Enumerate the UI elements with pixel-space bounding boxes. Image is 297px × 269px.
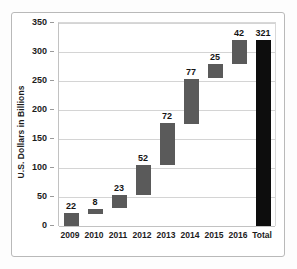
gridline: [59, 23, 275, 24]
y-axis-tick-mark: [50, 225, 54, 226]
gridline: [59, 226, 275, 227]
y-axis-tick-mark: [50, 109, 54, 110]
bar-value-label: 42: [234, 28, 244, 38]
gridline: [59, 81, 275, 82]
waterfall-bar: [112, 195, 127, 208]
waterfall-chart-figure: U.S. Dollars in Billions 050100150200250…: [0, 0, 297, 269]
waterfall-bar: [136, 165, 151, 195]
y-axis-title: U.S. Dollars in Billions: [13, 62, 29, 202]
total-bar: [256, 40, 271, 226]
y-axis-tick-label: 0: [42, 220, 47, 230]
waterfall-bar: [88, 209, 103, 214]
x-axis-tick-label: 2012: [133, 230, 152, 240]
bar-value-label: 77: [186, 67, 196, 77]
bar-value-label: 321: [255, 28, 270, 38]
y-axis-tick-label: 300: [32, 46, 47, 56]
x-axis-tick-label: 2015: [205, 230, 224, 240]
y-axis-tick-label: 50: [37, 191, 47, 201]
x-axis-tick-labels: 20092010201120122013201420152016Total: [58, 230, 276, 246]
x-axis-tick-label: 2009: [61, 230, 80, 240]
x-axis-tick-label: 2013: [157, 230, 176, 240]
x-axis-tick-label: 2014: [181, 230, 200, 240]
y-axis-tick-mark: [50, 51, 54, 52]
y-axis-title-text: U.S. Dollars in Billions: [16, 85, 26, 178]
y-axis-tick-mark: [50, 196, 54, 197]
y-axis-tick-mark: [50, 167, 54, 168]
x-axis-tick-label: 2011: [109, 230, 127, 240]
y-axis-tick-label: 100: [32, 162, 47, 172]
waterfall-bar: [232, 40, 247, 64]
bar-value-label: 8: [92, 197, 97, 207]
bar-value-label: 72: [162, 111, 172, 121]
y-axis-tick-label: 200: [32, 104, 47, 114]
gridline: [59, 168, 275, 169]
y-axis-tick-mark: [50, 80, 54, 81]
x-axis-tick-label: Total: [252, 230, 272, 240]
y-axis-tick-labels: 050100150200250300350: [28, 22, 54, 226]
bar-value-label: 23: [114, 183, 124, 193]
bar-value-label: 22: [66, 201, 76, 211]
waterfall-bar: [208, 64, 223, 78]
x-axis-tick-label: 2016: [229, 230, 248, 240]
waterfall-bar: [184, 79, 199, 124]
gridline: [59, 197, 275, 198]
bar-value-label: 52: [138, 153, 148, 163]
y-axis-tick-label: 350: [32, 17, 47, 27]
plot-area: 228235272772542321: [58, 22, 276, 226]
y-axis-tick-label: 150: [32, 133, 47, 143]
waterfall-bar: [64, 213, 79, 226]
x-axis-tick-label: 2010: [85, 230, 104, 240]
y-axis-tick-label: 250: [32, 75, 47, 85]
y-axis-tick-mark: [50, 22, 54, 23]
y-axis-tick-mark: [50, 138, 54, 139]
waterfall-bar: [160, 123, 175, 165]
bar-value-label: 25: [210, 52, 220, 62]
